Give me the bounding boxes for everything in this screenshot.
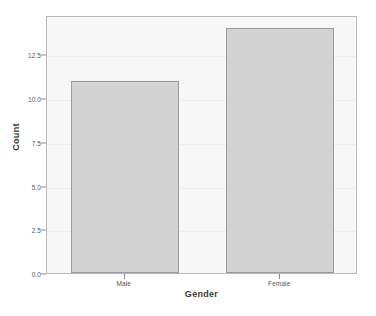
bar-chart: Count 0.02.55.07.510.012.5 MaleFemale Ge…	[0, 0, 376, 316]
x-axis-title: Gender	[46, 289, 357, 299]
y-axis-tick-label: 2.5	[20, 227, 41, 234]
x-axis-tick-mark	[124, 274, 125, 279]
x-axis-tick-label: Female	[268, 280, 290, 287]
y-axis-tick-label: 10.0	[20, 96, 41, 103]
y-axis-tick-label: 0.0	[20, 271, 41, 278]
bar-male[interactable]	[71, 81, 179, 273]
y-axis-tick-label: 12.5	[20, 52, 41, 59]
bar-female[interactable]	[226, 28, 334, 273]
y-axis-tick-label: 7.5	[20, 139, 41, 146]
x-axis-tick-mark	[279, 274, 280, 279]
x-axis-tick-label: Male	[117, 280, 132, 287]
y-axis-tick-labels: 0.02.55.07.510.012.5	[20, 0, 41, 316]
y-axis-tick-label: 5.0	[20, 183, 41, 190]
plot-area	[46, 16, 357, 274]
